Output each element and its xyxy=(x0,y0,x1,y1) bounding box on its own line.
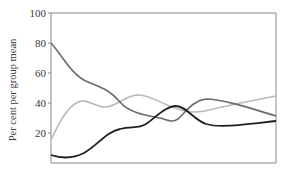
series-lines xyxy=(51,43,276,157)
y-tick-label: 20 xyxy=(35,127,47,139)
y-tick-label: 40 xyxy=(35,97,47,109)
y-tick-label: 60 xyxy=(35,67,47,79)
plot-frame xyxy=(51,13,276,163)
series-medium-gray-line xyxy=(51,43,276,121)
series-black-line xyxy=(51,106,276,157)
series-light-gray-line xyxy=(51,95,276,140)
y-axis: 100 80 60 40 20 xyxy=(30,7,52,139)
y-tick-label: 100 xyxy=(30,7,47,19)
line-chart: 100 80 60 40 20 Per cent per group mean xyxy=(0,0,286,174)
y-axis-title: Per cent per group mean xyxy=(7,38,18,141)
y-tick-label: 80 xyxy=(35,37,47,49)
